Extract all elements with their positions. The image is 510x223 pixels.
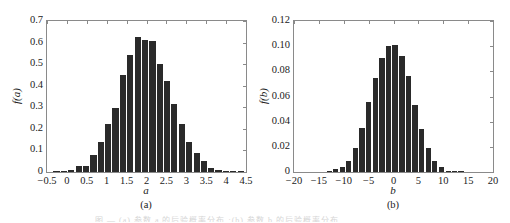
plot-area-b [293,20,494,173]
histogram-bar [340,167,345,172]
x-tick-mark [418,21,419,24]
figure-caption: 图 — (a) 参数 a 的后验概率分布 ;(b) 参数 b 的后验概率分布 [95,214,425,222]
x-tick-mark [443,21,444,24]
x-tick-label: 20 [478,176,508,187]
histogram-bar [392,45,397,172]
x-tick-mark [468,21,469,24]
histogram-bar [379,58,384,173]
x-tick-mark [344,21,345,24]
histogram-bar [439,167,444,172]
histogram-bar [432,161,437,172]
y-tick-label: 0.02 [260,141,290,152]
panel-label-b: (b) [373,199,413,210]
y-tick-mark [490,147,493,148]
x-tick-mark [369,21,370,24]
histogram-bar [406,76,411,172]
chart-panel-b: 00.020.040.060.080.100.12 −20−15−10−5051… [0,0,510,223]
y-tick-label: 0.04 [260,116,290,127]
histogram-bar [373,78,378,172]
y-tick-mark [490,172,493,173]
y-axis-label-b: f(b) [257,76,269,116]
y-tick-label: 0.10 [260,40,290,51]
x-axis-label-b: b [373,184,413,196]
x-tick-mark [294,21,295,24]
histogram-bar [426,148,431,172]
histogram-bar [458,171,463,172]
x-tick-mark [394,21,395,24]
x-tick-mark [493,21,494,24]
x-tick-mark [319,21,320,24]
histogram-bar [346,161,351,172]
histogram-bar [446,171,451,173]
histogram-bar [333,169,338,172]
y-tick-mark [490,122,493,123]
histogram-bar [386,46,391,172]
y-tick-label: 0.08 [260,65,290,76]
histogram-bar [353,148,358,172]
histogram-bar [327,171,332,172]
histogram-bar [412,105,417,172]
y-tick-mark [490,46,493,47]
histogram-bar [399,56,404,172]
histogram-bar [359,128,364,172]
y-tick-mark [490,71,493,72]
histogram-bar [452,171,457,172]
histogram-bar [366,102,371,172]
y-tick-label: 0.12 [260,15,290,26]
y-tick-mark [490,97,493,98]
histogram-bar [419,129,424,172]
